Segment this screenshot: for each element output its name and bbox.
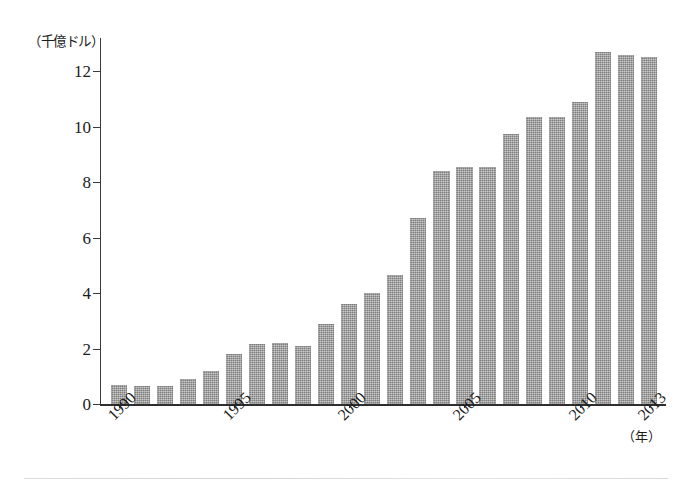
bar	[272, 343, 288, 404]
y-tick-label: 2	[83, 340, 92, 357]
bar	[572, 102, 588, 404]
y-tick-mark	[93, 127, 101, 128]
bar	[295, 346, 311, 404]
y-tick-mark	[93, 71, 101, 72]
bar	[618, 55, 634, 404]
x-axis-unit-label: （年）	[622, 426, 661, 445]
bar	[249, 344, 265, 404]
y-tick-label: 0	[83, 396, 92, 413]
bar	[433, 171, 449, 404]
plot-area: 024681012 199019952000200520102013	[100, 38, 666, 405]
bar-series	[100, 38, 666, 404]
y-tick-mark	[93, 182, 101, 183]
bar	[364, 293, 380, 404]
bar	[157, 386, 173, 404]
scan-artifact-line	[24, 478, 668, 479]
bar	[387, 275, 403, 404]
y-tick-mark	[93, 349, 101, 350]
y-tick-mark	[93, 293, 101, 294]
bar-chart-figure: （千億ドル） 024681012 19901995200020052010201…	[0, 0, 691, 490]
bar	[641, 57, 657, 404]
y-tick-mark	[93, 238, 101, 239]
y-axis-unit-label: （千億ドル）	[28, 30, 103, 50]
bar	[318, 324, 334, 404]
y-tick-label: 4	[83, 285, 92, 302]
bar	[180, 379, 196, 404]
bar	[503, 134, 519, 404]
y-tick-label: 6	[83, 229, 92, 246]
y-tick-label: 8	[83, 174, 92, 191]
y-tick-mark	[93, 404, 101, 405]
bar	[526, 117, 542, 404]
bar	[203, 371, 219, 404]
y-tick-label: 10	[74, 118, 91, 135]
y-tick-label: 12	[74, 63, 91, 80]
bar	[410, 218, 426, 404]
bar	[479, 167, 495, 404]
bar	[549, 117, 565, 404]
bar	[595, 52, 611, 404]
bar	[456, 167, 472, 404]
